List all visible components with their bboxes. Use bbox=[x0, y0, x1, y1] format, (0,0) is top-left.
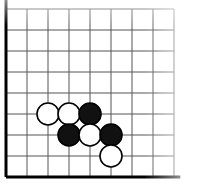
stone-black-D3[interactable] bbox=[58, 124, 80, 146]
stone-disc bbox=[58, 103, 80, 125]
stone-black-F3[interactable] bbox=[100, 124, 122, 146]
stone-white-E3[interactable] bbox=[79, 124, 101, 146]
stone-disc bbox=[79, 103, 101, 125]
stone-white-C4[interactable] bbox=[37, 103, 59, 125]
stone-disc bbox=[100, 145, 122, 167]
go-board-canvas[interactable] bbox=[0, 0, 200, 185]
stone-white-D4[interactable] bbox=[58, 103, 80, 125]
stone-disc bbox=[79, 124, 101, 146]
stone-disc bbox=[37, 103, 59, 125]
go-board-diagram bbox=[0, 0, 200, 185]
stone-disc bbox=[100, 124, 122, 146]
stone-disc bbox=[58, 124, 80, 146]
stone-white-F2[interactable] bbox=[100, 145, 122, 167]
stone-black-E4[interactable] bbox=[79, 103, 101, 125]
